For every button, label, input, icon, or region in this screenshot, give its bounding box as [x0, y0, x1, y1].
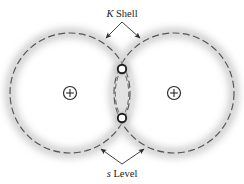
- bottom-node: [118, 114, 126, 122]
- figure-root: K Shell s Level: [0, 0, 244, 184]
- k-shell-label: K Shell: [105, 8, 137, 19]
- right-nucleus-marker: [168, 87, 181, 100]
- left-nucleus-marker: [64, 87, 77, 100]
- top-node: [118, 65, 126, 73]
- s-level-label-text: Level: [111, 168, 138, 179]
- orbital-diagram-svg: K Shell s Level: [0, 0, 244, 184]
- s-level-label: s Level: [107, 168, 138, 179]
- k-shell-label-text: Shell: [113, 8, 137, 19]
